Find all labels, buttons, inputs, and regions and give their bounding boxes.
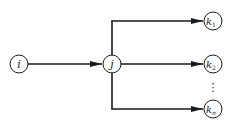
node-k2-sub: 2 — [212, 64, 216, 71]
node-kn-sub: n — [212, 109, 216, 116]
node-k2: k2 — [204, 55, 222, 73]
flow-diagram: i j k1 k2 kn ⋮ — [0, 0, 234, 127]
node-i-label: i — [17, 58, 21, 71]
ellipsis: ⋮ — [208, 81, 219, 94]
node-kn: kn — [204, 100, 222, 118]
node-j: j — [103, 55, 121, 73]
node-k1: k1 — [204, 12, 222, 30]
node-i: i — [10, 55, 28, 73]
node-k1-sub: 1 — [212, 21, 216, 28]
